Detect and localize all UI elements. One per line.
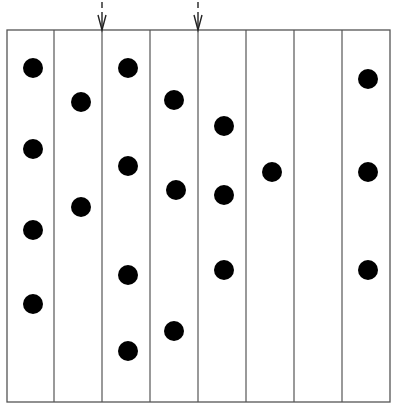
dot [262,162,282,182]
dot [118,58,138,78]
dot [118,265,138,285]
arrow-markers [98,2,202,30]
dot [358,69,378,89]
dots [23,58,378,361]
dot [166,180,186,200]
column-dividers [54,30,342,402]
dot [164,321,184,341]
dot [118,341,138,361]
down-arrow-icon [98,2,106,30]
dot [118,156,138,176]
dot [214,260,234,280]
dot [23,139,43,159]
down-arrow-icon [194,2,202,30]
dot [23,58,43,78]
dot [71,92,91,112]
dot [214,116,234,136]
dot [214,185,234,205]
dot [358,260,378,280]
column-dot-diagram [0,0,393,407]
dot [23,220,43,240]
dot [164,90,184,110]
dot [71,197,91,217]
dot [23,294,43,314]
dot [358,162,378,182]
